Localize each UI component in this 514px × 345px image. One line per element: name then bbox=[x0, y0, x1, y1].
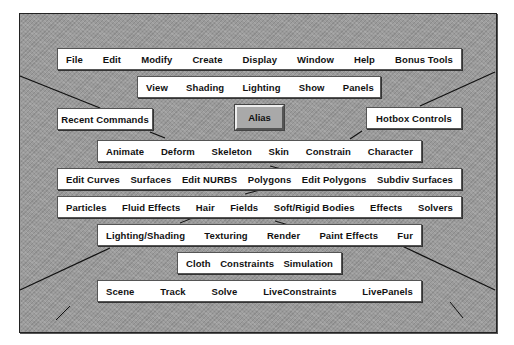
menu-edit-nurbs[interactable]: Edit NURBS bbox=[182, 174, 237, 185]
hotbox-row-main-menus: File Edit Modify Create Display Window H… bbox=[57, 48, 462, 70]
hotbox-row-panel-menus: View Shading Lighting Show Panels bbox=[137, 76, 381, 98]
menu-hair[interactable]: Hair bbox=[196, 202, 215, 213]
menu-subdiv-surfaces[interactable]: Subdiv Surfaces bbox=[377, 174, 453, 185]
menu-cloth[interactable]: Cloth bbox=[186, 258, 211, 269]
menu-soft-rigid-bodies[interactable]: Soft/Rigid Bodies bbox=[274, 202, 355, 213]
menu-view[interactable]: View bbox=[146, 82, 168, 93]
menu-render[interactable]: Render bbox=[267, 230, 300, 241]
recent-commands-label: Recent Commands bbox=[61, 114, 149, 125]
menu-solvers[interactable]: Solvers bbox=[418, 202, 453, 213]
menu-bonus-tools[interactable]: Bonus Tools bbox=[395, 54, 453, 65]
menu-polygons[interactable]: Polygons bbox=[248, 174, 292, 185]
menu-edit-curves[interactable]: Edit Curves bbox=[66, 174, 120, 185]
menu-simulation[interactable]: Simulation bbox=[283, 258, 333, 269]
menu-show[interactable]: Show bbox=[299, 82, 325, 93]
hotbox-controls-label: Hotbox Controls bbox=[376, 113, 452, 124]
recent-commands-button[interactable]: Recent Commands bbox=[57, 108, 153, 130]
menu-lighting[interactable]: Lighting bbox=[242, 82, 280, 93]
hotbox-row-rendering: Lighting/Shading Texturing Render Paint … bbox=[97, 224, 422, 246]
menu-live-panels[interactable]: LivePanels bbox=[362, 286, 413, 297]
menu-file[interactable]: File bbox=[66, 54, 83, 65]
alias-center-button[interactable]: Alias bbox=[235, 105, 284, 130]
hotbox-row-live: Scene Track Solve LiveConstraints LivePa… bbox=[97, 280, 422, 302]
menu-edit[interactable]: Edit bbox=[103, 54, 121, 65]
menu-character[interactable]: Character bbox=[368, 146, 413, 157]
menu-surfaces[interactable]: Surfaces bbox=[130, 174, 171, 185]
menu-deform[interactable]: Deform bbox=[161, 146, 195, 157]
menu-fluid-effects[interactable]: Fluid Effects bbox=[122, 202, 180, 213]
menu-display[interactable]: Display bbox=[243, 54, 278, 65]
alias-label: Alias bbox=[248, 112, 271, 123]
menu-live-constraints[interactable]: LiveConstraints bbox=[263, 286, 336, 297]
menu-solve[interactable]: Solve bbox=[212, 286, 238, 297]
hotbox-row-cloth: Cloth Constraints Simulation bbox=[177, 252, 342, 274]
menu-constraints[interactable]: Constraints bbox=[220, 258, 274, 269]
menu-create[interactable]: Create bbox=[192, 54, 222, 65]
menu-shading[interactable]: Shading bbox=[186, 82, 224, 93]
menu-window[interactable]: Window bbox=[297, 54, 334, 65]
menu-skin[interactable]: Skin bbox=[269, 146, 289, 157]
menu-effects[interactable]: Effects bbox=[370, 202, 402, 213]
menu-fur[interactable]: Fur bbox=[397, 230, 413, 241]
hotbox-row-animation: Animate Deform Skeleton Skin Constrain C… bbox=[97, 140, 422, 162]
menu-fields[interactable]: Fields bbox=[230, 202, 258, 213]
menu-help[interactable]: Help bbox=[354, 54, 375, 65]
menu-track[interactable]: Track bbox=[160, 286, 185, 297]
menu-texturing[interactable]: Texturing bbox=[204, 230, 247, 241]
menu-particles[interactable]: Particles bbox=[66, 202, 107, 213]
hotbox-row-dynamics: Particles Fluid Effects Hair Fields Soft… bbox=[57, 196, 462, 218]
menu-panels[interactable]: Panels bbox=[343, 82, 374, 93]
menu-constrain[interactable]: Constrain bbox=[306, 146, 351, 157]
menu-skeleton[interactable]: Skeleton bbox=[211, 146, 251, 157]
menu-animate[interactable]: Animate bbox=[106, 146, 144, 157]
hotbox-controls-button[interactable]: Hotbox Controls bbox=[366, 107, 462, 129]
menu-lighting-shading[interactable]: Lighting/Shading bbox=[106, 230, 185, 241]
menu-modify[interactable]: Modify bbox=[141, 54, 172, 65]
menu-edit-polygons[interactable]: Edit Polygons bbox=[302, 174, 367, 185]
hotbox-row-modeling: Edit Curves Surfaces Edit NURBS Polygons… bbox=[57, 168, 462, 190]
menu-paint-effects[interactable]: Paint Effects bbox=[319, 230, 378, 241]
menu-scene[interactable]: Scene bbox=[106, 286, 135, 297]
